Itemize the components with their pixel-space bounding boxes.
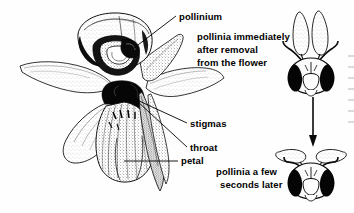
label-stigmas: stigmas [190,118,227,130]
adjacent-column-text-sliver [348,55,354,125]
label-pollinia-later-line2: seconds later [220,179,283,191]
label-pollinium: pollinium [179,11,222,23]
bee-clypeus-bottom [303,179,319,196]
label-petal: petal [181,155,204,167]
bee-clypeus-top [303,74,319,91]
orchid-pollination-figure [0,0,354,213]
label-throat: throat [190,142,218,154]
label-pollinia-after-removal-line1: pollinia immediately [197,31,290,43]
label-pollinia-after-removal-line3: from the flower [197,57,267,69]
label-pollinia-later-line1: pollinia a few [216,166,277,178]
label-pollinia-after-removal-line2: after removal [197,44,258,56]
